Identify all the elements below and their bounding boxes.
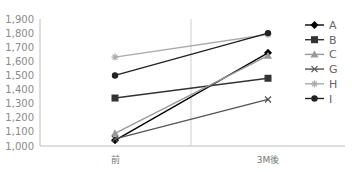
line-chart: 1,0001,1001,2001,3001,4001,5001,6001,700… bbox=[0, 0, 356, 172]
legend-item-I: I bbox=[305, 93, 332, 106]
triangle-marker-icon bbox=[111, 129, 119, 136]
y-tick-label: 1,300 bbox=[5, 98, 34, 109]
star-marker-icon bbox=[112, 54, 119, 61]
y-tick-label: 1,600 bbox=[5, 56, 34, 67]
square-marker-icon bbox=[311, 36, 318, 43]
square-marker-icon bbox=[265, 75, 272, 82]
legend-label: A bbox=[329, 19, 337, 32]
legend-label: I bbox=[329, 93, 332, 106]
circle-marker-icon bbox=[112, 72, 118, 78]
square-marker-icon bbox=[112, 95, 119, 102]
y-tick-label: 1,700 bbox=[5, 42, 34, 53]
legend-item-A: A bbox=[305, 19, 337, 32]
x-tick-label: 前 bbox=[111, 154, 120, 165]
legend-label: B bbox=[329, 34, 337, 47]
y-tick-label: 1,400 bbox=[5, 84, 34, 95]
legend-item-C: C bbox=[305, 48, 337, 61]
legend-item-H: H bbox=[305, 78, 337, 91]
circle-marker-icon bbox=[311, 95, 317, 101]
star-marker-icon bbox=[311, 80, 318, 87]
y-tick-label: 1,800 bbox=[5, 28, 34, 39]
chart-canvas: 1,0001,1001,2001,3001,4001,5001,6001,700… bbox=[0, 0, 356, 172]
diamond-marker-icon bbox=[311, 21, 319, 29]
y-tick-label: 1,200 bbox=[5, 112, 34, 123]
legend-label: H bbox=[329, 78, 337, 91]
legend-label: C bbox=[329, 48, 337, 61]
y-tick-label: 1,500 bbox=[5, 70, 34, 81]
legend-item-G: G bbox=[305, 63, 338, 76]
legend-label: G bbox=[329, 63, 338, 76]
y-tick-label: 1,100 bbox=[5, 126, 34, 137]
y-tick-label: 1,000 bbox=[5, 141, 34, 152]
y-tick-label: 1,900 bbox=[5, 14, 34, 25]
legend-item-B: B bbox=[305, 34, 337, 47]
circle-marker-icon bbox=[265, 30, 271, 36]
x-tick-label: 3M後 bbox=[257, 154, 280, 165]
legend: ABCGHI bbox=[305, 19, 338, 106]
